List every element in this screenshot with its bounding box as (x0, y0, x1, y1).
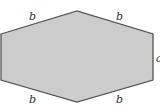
label-bottom-left-edge: b (29, 93, 36, 106)
label-top-right-edge: b (116, 10, 123, 23)
label-top-left-edge: b (29, 10, 36, 23)
label-right-edge: a (156, 52, 160, 65)
hexagon-diagram: b b a b b (0, 0, 160, 107)
hexagon-shape (1, 11, 153, 102)
label-bottom-right-edge: b (116, 93, 123, 106)
